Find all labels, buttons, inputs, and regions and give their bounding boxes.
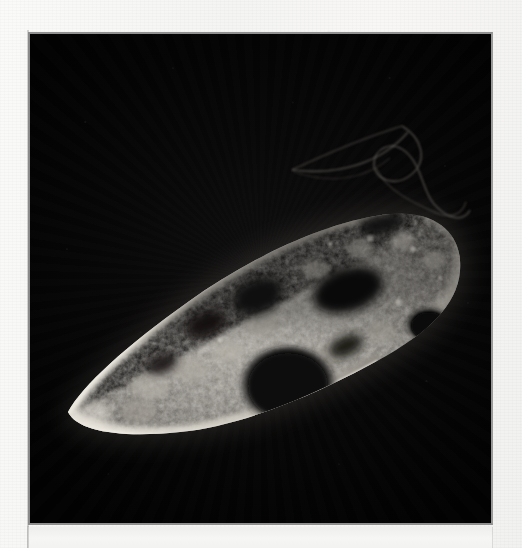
specimen-micrograph	[30, 34, 491, 523]
plate-caption-strip	[28, 527, 493, 548]
flagellum-coil	[374, 126, 470, 218]
photographic-plate	[28, 32, 493, 525]
flagellum-upper	[292, 126, 408, 179]
paper-page	[0, 0, 522, 548]
body-shading	[60, 184, 491, 334]
